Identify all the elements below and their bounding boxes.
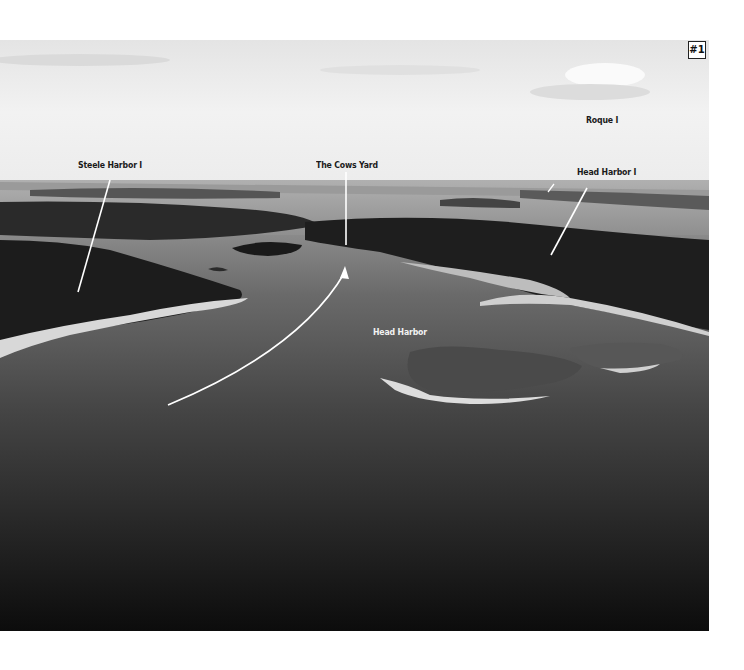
label-roque-island: Roque I [586,114,618,125]
label-cows-yard: The Cows Yard [316,159,378,170]
figure-number-badge: #1 [688,41,706,59]
label-head-harbor: Head Harbor [373,326,427,337]
label-steele-harbor-island: Steele Harbor I [78,159,142,170]
label-head-harbor-island: Head Harbor I [577,166,636,177]
aerial-photo [0,40,709,631]
aerial-photo-scene [0,40,709,631]
